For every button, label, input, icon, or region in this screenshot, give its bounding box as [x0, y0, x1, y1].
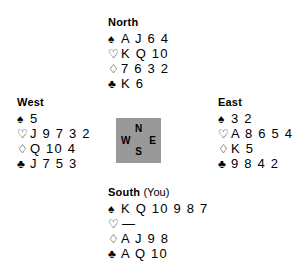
club-icon: ♣ [108, 247, 121, 262]
diamond-icon: ♢ [108, 62, 121, 77]
hand-east-spades: 3 2 [231, 111, 253, 126]
hand-east-diamonds: K 5 [231, 141, 254, 156]
hand-east-hearts-row: ♡ A 8 6 5 4 [218, 126, 293, 141]
hand-west: West ♠ 5 ♡ J 9 7 3 2 ♢ Q 10 4 ♣ J 7 5 3 [17, 96, 91, 171]
hand-south: South (You) ♠ K Q 10 9 8 7 ♡ — ♢ A J 9 8… [108, 186, 208, 261]
hand-west-hearts: J 9 7 3 2 [30, 126, 91, 141]
hand-west-spades-row: ♠ 5 [17, 111, 91, 126]
hand-east-clubs: 9 8 4 2 [231, 156, 279, 171]
heart-icon: ♡ [218, 127, 231, 142]
bridge-hand-diagram: North ♠ A J 6 4 ♡ K Q 10 ♢ 7 6 3 2 ♣ K 6… [0, 0, 301, 278]
hand-east-label: East [218, 96, 293, 109]
compass-box: N W E S [116, 118, 161, 163]
hand-north-label-text: North [108, 16, 138, 28]
diamond-icon: ♢ [17, 142, 30, 157]
hand-south-label: South (You) [108, 186, 208, 199]
hand-east-hearts: A 8 6 5 4 [231, 126, 293, 141]
hand-north-diamonds-row: ♢ 7 6 3 2 [108, 61, 169, 76]
hand-east-diamonds-row: ♢ K 5 [218, 141, 293, 156]
hand-east-clubs-row: ♣ 9 8 4 2 [218, 156, 293, 171]
hand-south-diamonds-row: ♢ A J 9 8 [108, 231, 208, 246]
compass-west-label: W [121, 136, 130, 146]
hand-south-spades-row: ♠ K Q 10 9 8 7 [108, 201, 208, 216]
club-icon: ♣ [218, 157, 231, 172]
hand-west-hearts-row: ♡ J 9 7 3 2 [17, 126, 91, 141]
compass-east-label: E [149, 136, 156, 146]
hand-north-diamonds: 7 6 3 2 [121, 61, 169, 76]
hand-east-spades-row: ♠ 3 2 [218, 111, 293, 126]
spade-icon: ♠ [218, 112, 231, 127]
club-icon: ♣ [108, 77, 121, 92]
spade-icon: ♠ [17, 112, 30, 127]
hand-north: North ♠ A J 6 4 ♡ K Q 10 ♢ 7 6 3 2 ♣ K 6 [108, 16, 169, 91]
heart-icon: ♡ [17, 127, 30, 142]
hand-west-clubs-row: ♣ J 7 5 3 [17, 156, 91, 171]
hand-north-spades-row: ♠ A J 6 4 [108, 31, 169, 46]
hand-west-diamonds-row: ♢ Q 10 4 [17, 141, 91, 156]
hand-south-spades: K Q 10 9 8 7 [121, 201, 208, 216]
hand-south-hearts-row: ♡ — [108, 216, 208, 231]
hand-north-label: North [108, 16, 169, 29]
hand-east-label-text: East [218, 96, 242, 108]
hand-west-label-text: West [17, 96, 44, 108]
hand-south-hearts: — [121, 216, 135, 231]
heart-icon: ♡ [108, 47, 121, 62]
hand-west-label: West [17, 96, 91, 109]
hand-west-spades: 5 [30, 111, 38, 126]
hand-north-hearts: K Q 10 [121, 46, 169, 61]
club-icon: ♣ [17, 157, 30, 172]
hand-south-clubs: A Q 10 [121, 246, 168, 261]
hand-south-clubs-row: ♣ A Q 10 [108, 246, 208, 261]
spade-icon: ♠ [108, 32, 121, 47]
hand-north-spades: A J 6 4 [121, 31, 169, 46]
compass-north-label: N [135, 124, 142, 134]
spade-icon: ♠ [108, 202, 121, 217]
hand-south-annotation: (You) [143, 186, 169, 198]
diamond-icon: ♢ [218, 142, 231, 157]
hand-south-label-text: South [108, 186, 140, 198]
hand-west-clubs: J 7 5 3 [30, 156, 77, 171]
hand-north-hearts-row: ♡ K Q 10 [108, 46, 169, 61]
hand-south-diamonds: A J 9 8 [121, 231, 169, 246]
hand-north-clubs-row: ♣ K 6 [108, 76, 169, 91]
hand-east: East ♠ 3 2 ♡ A 8 6 5 4 ♢ K 5 ♣ 9 8 4 2 [218, 96, 293, 171]
compass-south-label: S [135, 147, 142, 157]
hand-west-diamonds: Q 10 4 [30, 141, 76, 156]
hand-north-clubs: K 6 [121, 76, 144, 91]
diamond-icon: ♢ [108, 232, 121, 247]
heart-icon: ♡ [108, 217, 121, 232]
